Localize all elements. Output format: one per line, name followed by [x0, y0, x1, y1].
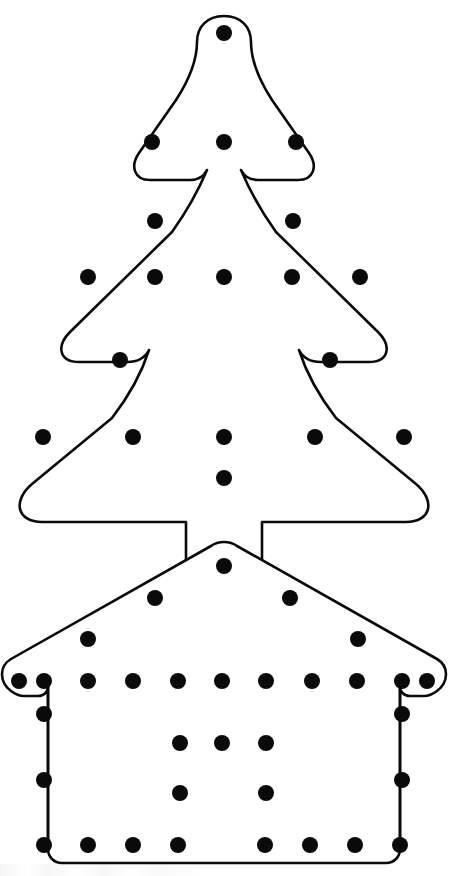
- house-floor-peg-7[interactable]: [347, 837, 363, 853]
- house-wall-right-lower-peg[interactable]: [394, 772, 410, 788]
- tree-base-center-peg[interactable]: [216, 429, 232, 445]
- tree-base-far-right-peg[interactable]: [396, 429, 412, 445]
- house-eave-peg-8[interactable]: [304, 673, 320, 689]
- tree-base-right-peg[interactable]: [307, 429, 323, 445]
- house-eave-peg-9[interactable]: [349, 673, 365, 689]
- house-eave-peg-5[interactable]: [170, 673, 186, 689]
- tree-tier1-center-peg[interactable]: [216, 134, 232, 150]
- tree-slope-lower-left-peg[interactable]: [112, 352, 128, 368]
- tree-tier2-left-peg[interactable]: [147, 269, 163, 285]
- house-eave-peg-3[interactable]: [80, 673, 96, 689]
- house-roof-peak-peg[interactable]: [216, 558, 232, 574]
- tree-tier2-right-peg[interactable]: [284, 269, 300, 285]
- house-eave-peg-7[interactable]: [258, 673, 274, 689]
- house-eave-peg-11[interactable]: [419, 673, 435, 689]
- tree-base-far-left-peg[interactable]: [35, 429, 51, 445]
- tree-tier2-far-right-peg[interactable]: [352, 269, 368, 285]
- house-wall-left-lower-peg[interactable]: [36, 772, 52, 788]
- house-eave-peg-4[interactable]: [125, 673, 141, 689]
- house-floor-peg-3[interactable]: [125, 837, 141, 853]
- house-roof-right-upper-peg[interactable]: [282, 590, 298, 606]
- house-floor-peg-6[interactable]: [302, 837, 318, 853]
- christmas-tree-shape[interactable]: [20, 16, 429, 568]
- house-outline: [2, 542, 446, 863]
- tree-slope-lower-right-peg[interactable]: [322, 352, 338, 368]
- shapes-canvas: [0, 0, 468, 876]
- house-eave-peg-10[interactable]: [394, 673, 410, 689]
- house-window-row1-left-peg[interactable]: [172, 735, 188, 751]
- tree-slope-upper-left-peg[interactable]: [147, 213, 163, 229]
- house-floor-peg-2[interactable]: [80, 837, 96, 853]
- house-eave-peg-6[interactable]: [214, 673, 230, 689]
- house-floor-peg-5[interactable]: [257, 837, 273, 853]
- tree-tier2-far-left-peg[interactable]: [80, 269, 96, 285]
- house-window-row1-center-peg[interactable]: [214, 735, 230, 751]
- house-window-row1-right-peg[interactable]: [258, 735, 274, 751]
- tree-star-peg[interactable]: [216, 25, 232, 41]
- house-wall-left-upper-peg[interactable]: [36, 706, 52, 722]
- house-window-row2-left-peg[interactable]: [172, 785, 188, 801]
- page-canvas: [0, 0, 468, 876]
- tree-tier2-center-peg[interactable]: [216, 269, 232, 285]
- house-floor-peg-1[interactable]: [36, 837, 52, 853]
- house-roof-left-upper-peg[interactable]: [147, 590, 163, 606]
- house-floor-peg-8[interactable]: [392, 837, 408, 853]
- tree-tier1-right-peg[interactable]: [288, 134, 304, 150]
- house-eave-peg-2[interactable]: [36, 673, 52, 689]
- tree-trunk-peg[interactable]: [216, 470, 232, 486]
- tree-slope-upper-right-peg[interactable]: [285, 213, 301, 229]
- house-wall-right-upper-peg[interactable]: [394, 706, 410, 722]
- house-shape[interactable]: [2, 542, 446, 863]
- house-eave-peg-1[interactable]: [11, 673, 27, 689]
- tree-tier1-left-peg[interactable]: [144, 134, 160, 150]
- house-roof-right-lower-peg[interactable]: [350, 631, 366, 647]
- tree-base-left-peg[interactable]: [125, 429, 141, 445]
- house-roof-left-lower-peg[interactable]: [80, 631, 96, 647]
- house-floor-peg-4[interactable]: [170, 837, 186, 853]
- house-window-row2-right-peg[interactable]: [258, 785, 274, 801]
